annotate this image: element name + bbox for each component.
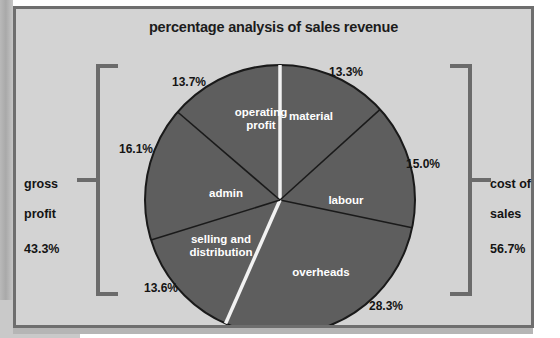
- gross-profit-label-line1: gross: [24, 177, 59, 192]
- pie-group-divider: [226, 200, 280, 324]
- pie-label-overheads: overheads: [266, 266, 376, 279]
- bracket-left-tick: [77, 178, 98, 182]
- cost-of-sales-value: 56.7%: [490, 242, 531, 257]
- gross-profit-value: 43.3%: [24, 242, 59, 257]
- chart-frame: percentage analysis of sales revenue mat…: [13, 6, 534, 328]
- cost-of-sales-label-line2: sales: [490, 207, 531, 222]
- pie-percent-operating-profit: 13.7%: [172, 75, 206, 89]
- pie-label-labour: labour: [291, 194, 401, 207]
- pie-percent-overheads: 28.3%: [369, 299, 403, 313]
- pie-slice-selling-and-distribution[interactable]: [151, 200, 280, 324]
- cost-of-sales-label: cost of sales 56.7%: [490, 162, 531, 272]
- pie-label-operating-profit: operating profit: [206, 106, 316, 132]
- bracket-left-top-arm: [96, 64, 118, 68]
- pie-percent-labour: 15.0%: [406, 157, 440, 171]
- bracket-right-bottom-arm: [450, 292, 472, 296]
- pie-slice-material[interactable]: [280, 65, 380, 200]
- gross-profit-label-line2: profit: [24, 207, 59, 222]
- pie-percent-admin: 16.1%: [119, 142, 153, 156]
- screenshot-root: percentage analysis of sales revenue mat…: [0, 0, 560, 338]
- chart-title: percentage analysis of sales revenue: [16, 19, 531, 35]
- pie-percent-selling-and-distribution: 13.6%: [144, 281, 178, 295]
- bracket-right-tick: [470, 178, 491, 182]
- pie-label-selling-and-distribution: selling and distribution: [166, 233, 276, 259]
- bracket-left-bottom-arm: [96, 292, 118, 296]
- pie-label-admin: admin: [171, 187, 281, 200]
- cost-of-sales-label-line1: cost of: [490, 177, 531, 192]
- gross-profit-label: gross profit 43.3%: [24, 162, 59, 272]
- bracket-right-top-arm: [450, 64, 472, 68]
- pie-percent-material: 13.3%: [329, 65, 363, 79]
- scan-edge-artifact-left: [0, 0, 13, 330]
